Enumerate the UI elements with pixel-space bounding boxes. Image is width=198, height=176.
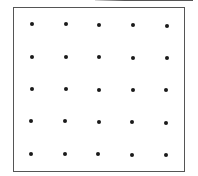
grid-dot bbox=[64, 87, 68, 91]
grid-dot bbox=[96, 152, 100, 156]
grid-dot bbox=[97, 55, 101, 59]
grid-dot bbox=[97, 120, 101, 124]
grid-dot bbox=[30, 55, 34, 59]
top-edge-line bbox=[95, 0, 193, 1]
grid-dot bbox=[164, 121, 168, 125]
grid-dot bbox=[97, 23, 101, 27]
grid-dot bbox=[130, 153, 134, 157]
grid-dot bbox=[29, 119, 33, 123]
grid-dot bbox=[64, 22, 68, 26]
grid-dot bbox=[64, 55, 68, 59]
grid-dot bbox=[30, 22, 34, 26]
grid-dot bbox=[131, 56, 135, 60]
grid-dot bbox=[63, 152, 67, 156]
grid-dot bbox=[97, 88, 101, 92]
grid-dot bbox=[164, 88, 168, 92]
grid-dot bbox=[165, 24, 169, 28]
grid-dot bbox=[29, 152, 33, 156]
grid-dot bbox=[131, 23, 135, 27]
grid-dot bbox=[164, 153, 168, 157]
grid-dot bbox=[30, 87, 34, 91]
grid-dot bbox=[130, 120, 134, 124]
grid-dot bbox=[131, 88, 135, 92]
grid-dot bbox=[63, 119, 67, 123]
grid-dot bbox=[165, 56, 169, 60]
